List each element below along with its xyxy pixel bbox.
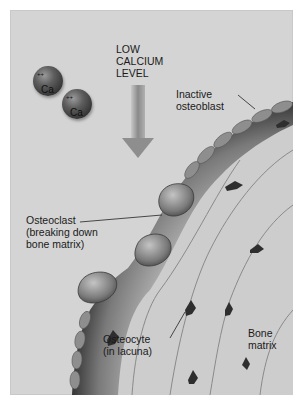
osteocyte-label: Osteocyte (in lacuna) <box>103 333 152 357</box>
calcium-ion: Ca++ <box>33 66 63 96</box>
down-arrow-icon <box>122 85 154 158</box>
inactive-osteoblast-label: Inactive osteoblast <box>176 88 224 112</box>
low-calcium-level-label: LOW CALCIUM LEVEL <box>116 43 163 79</box>
diagram-panel: Ca++ Ca++ LOW CALCIUM LEVEL Inactive ost… <box>10 10 293 395</box>
calcium-ion: Ca++ <box>62 89 92 119</box>
osteoclast-label: Osteoclast (breaking down bone matrix) <box>26 214 98 250</box>
bone-matrix-label: Bone matrix <box>248 327 277 351</box>
